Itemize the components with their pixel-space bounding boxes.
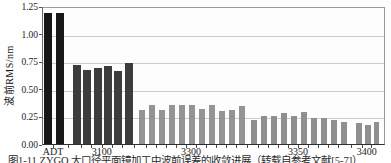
x-tick-label-3300: 3300 bbox=[181, 146, 201, 157]
y-tick-mark bbox=[39, 117, 42, 118]
x-tick-mark bbox=[216, 145, 217, 148]
y-tick-mark bbox=[39, 7, 42, 8]
y-tick-mark bbox=[39, 89, 42, 90]
x-tick-label-3400: 3400 bbox=[357, 146, 377, 157]
x-tick-mark bbox=[134, 145, 135, 148]
bar-3350-4 bbox=[281, 113, 287, 144]
bar-3350-3 bbox=[271, 116, 277, 144]
x-tick-mark bbox=[371, 145, 372, 148]
bar-3400-2 bbox=[365, 125, 371, 144]
x-tick-mark bbox=[226, 145, 227, 148]
x-tick-mark bbox=[68, 145, 69, 148]
gridline bbox=[43, 63, 384, 64]
bar-3400-1 bbox=[356, 123, 362, 144]
gridline bbox=[43, 36, 384, 37]
x-tick-mark bbox=[247, 145, 248, 148]
bar-3350-9 bbox=[331, 120, 337, 144]
x-tick-mark bbox=[81, 145, 82, 148]
bar-ADT-2 bbox=[56, 13, 64, 144]
x-tick-mark bbox=[298, 145, 299, 148]
bar-3100-3 bbox=[94, 68, 102, 144]
y-tick-label: 0.75 bbox=[0, 57, 38, 67]
bar-3400-3 bbox=[374, 122, 380, 144]
x-tick-mark bbox=[53, 145, 54, 148]
bar-3100-1 bbox=[73, 65, 81, 144]
x-tick-mark bbox=[102, 145, 103, 148]
x-tick-mark bbox=[338, 145, 339, 148]
x-tick-mark bbox=[351, 145, 352, 148]
bar-3100-5 bbox=[114, 71, 122, 144]
y-tick-label: 0.00 bbox=[0, 140, 38, 150]
x-tick-mark bbox=[288, 145, 289, 148]
x-tick-mark bbox=[308, 145, 309, 148]
x-tick-mark bbox=[206, 145, 207, 148]
bar-3300-7 bbox=[199, 109, 205, 144]
bar-3300-10 bbox=[229, 110, 235, 144]
x-tick-mark bbox=[268, 145, 269, 148]
bar-3300-8 bbox=[209, 105, 215, 144]
bar-3300-11 bbox=[239, 106, 245, 144]
x-tick-mark bbox=[236, 145, 237, 148]
y-tick-mark bbox=[39, 145, 42, 146]
y-tick-label: 1.25 bbox=[0, 2, 38, 12]
x-tick-mark bbox=[278, 145, 279, 148]
bar-3350-5 bbox=[291, 116, 297, 144]
x-tick-mark bbox=[166, 145, 167, 148]
x-tick-mark bbox=[146, 145, 147, 148]
bar-3100-6 bbox=[125, 63, 133, 144]
x-tick-mark bbox=[176, 145, 177, 148]
bar-3350-2 bbox=[261, 116, 267, 144]
bar-3350-10 bbox=[341, 122, 347, 144]
y-tick-mark bbox=[39, 62, 42, 63]
x-tick-mark bbox=[186, 145, 187, 148]
x-tick-mark bbox=[91, 145, 92, 148]
x-tick-mark bbox=[362, 145, 363, 148]
y-tick-label: 1.00 bbox=[0, 30, 38, 40]
wavefront-rms-figure: 波前RMS/nm 图1-11 ZYGO 大口径平面镜加工中波前误差的收敛进展（转… bbox=[0, 0, 391, 163]
bar-3350-8 bbox=[321, 118, 327, 144]
y-axis-title: 波前RMS/nm bbox=[3, 26, 16, 126]
bar-3300-1 bbox=[139, 110, 145, 144]
plot-area bbox=[42, 7, 385, 145]
bar-3300-3 bbox=[159, 110, 165, 144]
x-tick-mark bbox=[112, 145, 113, 148]
y-tick-mark bbox=[39, 34, 42, 35]
y-tick-label: 0.50 bbox=[0, 85, 38, 95]
x-tick-mark bbox=[122, 145, 123, 148]
bar-3300-6 bbox=[189, 105, 195, 144]
x-tick-mark bbox=[156, 145, 157, 148]
bar-3350-1 bbox=[251, 120, 257, 144]
bar-3350-7 bbox=[311, 118, 317, 144]
y-tick-label: 0.25 bbox=[0, 112, 38, 122]
bar-ADT-1 bbox=[44, 13, 52, 144]
bar-3300-5 bbox=[179, 105, 185, 144]
bar-3100-4 bbox=[104, 66, 112, 144]
bar-3300-9 bbox=[219, 111, 225, 144]
x-tick-mark bbox=[328, 145, 329, 148]
bar-3300-4 bbox=[169, 105, 175, 144]
bar-3100-2 bbox=[83, 70, 91, 144]
x-tick-mark bbox=[258, 145, 259, 148]
bar-3350-6 bbox=[301, 112, 307, 144]
x-tick-mark bbox=[318, 145, 319, 148]
x-tick-mark bbox=[196, 145, 197, 148]
bar-3300-2 bbox=[149, 105, 155, 144]
